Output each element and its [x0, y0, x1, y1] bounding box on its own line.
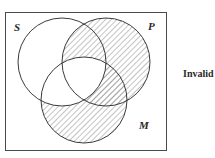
label-s: S [14, 21, 20, 33]
label-m: M [138, 119, 150, 131]
verdict-label: Invalid [183, 68, 214, 79]
label-p: P [148, 20, 155, 32]
venn-diagram: S P M [0, 0, 215, 158]
shaded-area [18, 18, 150, 143]
